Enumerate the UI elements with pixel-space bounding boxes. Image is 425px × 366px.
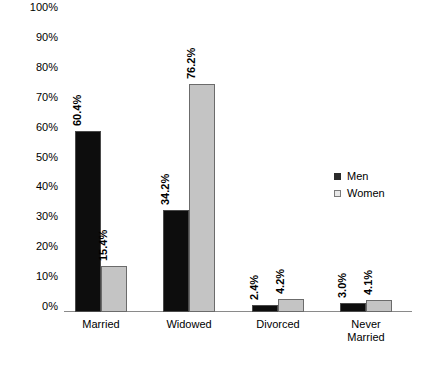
category-label-line: Married [311,331,421,344]
x-axis-category-labels: MarriedWidowedDivorcedNeverMarried [64,318,412,362]
bar-women-married[interactable]: 15.4% [101,266,127,312]
y-axis-tick-label: 70% [12,92,58,103]
bar-value-label: 3.0% [337,273,348,298]
bar-women-widowed[interactable]: 76.2% [189,84,215,312]
bar-group: 3.0%4.1% [340,13,392,312]
women-swatch-icon [334,190,341,197]
y-axis-tick-label: 20% [12,241,58,252]
bar-value-label: 4.2% [275,269,286,294]
y-axis-tick-label: 80% [12,62,58,73]
bar-men-widowed[interactable]: 34.2% [163,210,189,312]
bar-men-married[interactable]: 60.4% [75,131,101,312]
y-axis-tick-label: 90% [12,32,58,43]
chart-legend: MenWomen [334,168,414,202]
bar-value-label: 34.2% [160,174,171,205]
bar-men-divorced[interactable]: 2.4% [252,305,278,312]
legend-label: Women [347,188,385,199]
bar-group: 34.2%76.2% [163,13,215,312]
legend-item-men[interactable]: Men [334,168,414,185]
y-axis: 100%90%80%70%60%50%40%30%20%10%0% [12,0,58,366]
y-axis-tick-label: 50% [12,152,58,163]
category-label: NeverMarried [311,318,421,344]
bar-men-never-married[interactable]: 3.0% [340,303,366,312]
legend-label: Men [347,171,368,182]
y-axis-tick-label: 30% [12,211,58,222]
bar-women-never-married[interactable]: 4.1% [366,300,392,312]
bar-group: 2.4%4.2% [252,13,304,312]
legend-item-women[interactable]: Women [334,185,414,202]
bar-value-label: 15.4% [98,230,109,261]
men-swatch-icon [334,173,341,180]
y-axis-tick-label: 100% [12,2,58,13]
y-axis-tick-label: 10% [12,271,58,282]
category-label-line: Never [311,318,421,331]
plot-area: 60.4%15.4%34.2%76.2%2.4%4.2%3.0%4.1% [64,7,412,312]
bar-group: 60.4%15.4% [75,13,127,312]
y-axis-tick-label: 40% [12,181,58,192]
bar-women-divorced[interactable]: 4.2% [278,299,304,312]
y-axis-tick-label: 0% [12,301,58,312]
bar-value-label: 4.1% [363,270,374,295]
bar-value-label: 76.2% [186,48,197,79]
bar-value-label: 2.4% [249,275,260,300]
y-axis-tick-label: 60% [12,122,58,133]
bar-chart: 100%90%80%70%60%50%40%30%20%10%0% 60.4%1… [0,0,425,366]
bar-value-label: 60.4% [72,95,83,126]
